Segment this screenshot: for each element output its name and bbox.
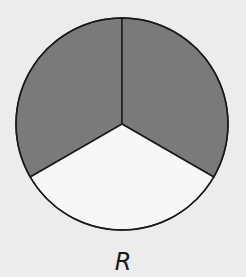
figure-label: R bbox=[0, 248, 246, 276]
figure: R bbox=[0, 0, 246, 277]
fraction-circle bbox=[0, 0, 246, 277]
